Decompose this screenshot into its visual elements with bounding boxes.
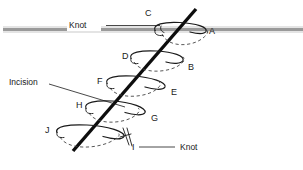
loop-ij-hidden-arc — [60, 133, 119, 147]
loop-label-d: D — [122, 51, 129, 61]
diagram-page: Knot Incision Knot ABCDEFGHIJ — [0, 0, 303, 170]
knot-top-label: Knot — [69, 20, 87, 30]
suture-diagram: Knot Incision Knot ABCDEFGHIJ — [0, 0, 303, 170]
loop-label-a: A — [209, 26, 215, 36]
loop-label-b: B — [188, 62, 194, 72]
loop-label-c: C — [145, 8, 152, 18]
loop-label-g: G — [151, 113, 158, 123]
knot-bottom-label: Knot — [180, 142, 198, 152]
loop-bd-hidden-arc — [134, 57, 184, 71]
knot-bottom-callout: Knot — [139, 142, 198, 152]
loop-label-i: I — [132, 142, 135, 152]
incision-callout: Incision — [9, 77, 125, 107]
loop-ef-crossover — [107, 84, 114, 89]
skin-surface-line-group — [3, 27, 303, 32]
incision-label: Incision — [9, 77, 38, 87]
loop-gh-crossover — [86, 109, 93, 114]
loop-label-e: E — [171, 87, 177, 97]
loop-gh-hidden-arc — [89, 108, 139, 122]
loop-label-f: F — [97, 76, 103, 86]
loop-label-h: H — [76, 100, 83, 110]
loop-label-j: J — [45, 125, 50, 135]
loop-ij-crossover — [57, 133, 64, 138]
